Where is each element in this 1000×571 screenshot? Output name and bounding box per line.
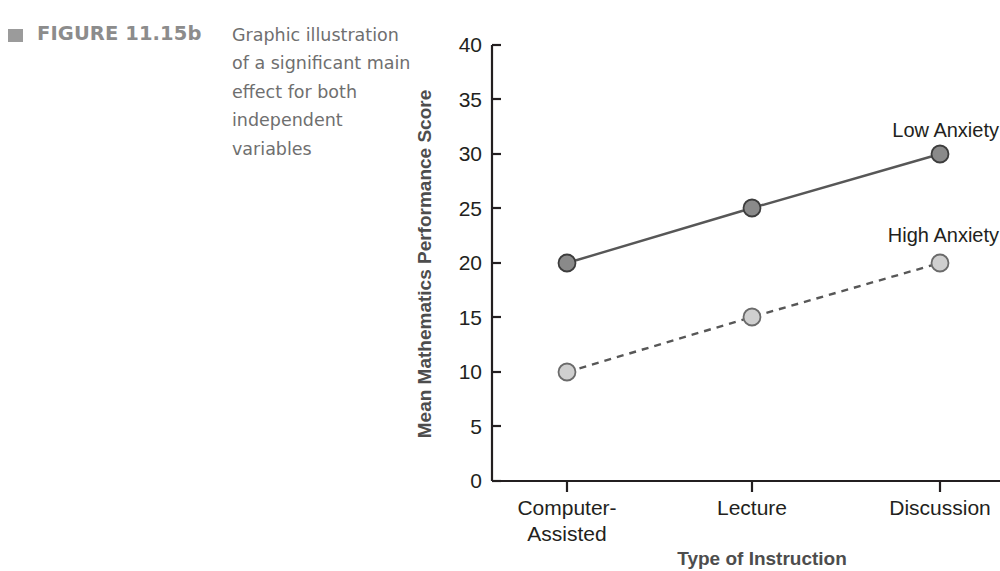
data-point-marker — [932, 146, 949, 163]
series-markers-high-anxiety — [559, 255, 949, 381]
y-tick-label: 0 — [470, 469, 482, 492]
data-point-marker — [559, 364, 576, 381]
figure-caption-block: FIGURE 11.15b Graphic illustration of a … — [0, 0, 430, 230]
x-axis-category-labels: Computer- Assisted Lecture Discussion — [517, 496, 990, 545]
x-axis-title: Type of Instruction — [677, 548, 847, 569]
series-label-high-anxiety: High Anxiety — [888, 224, 999, 246]
data-point-marker — [559, 255, 576, 272]
y-tick-label: 5 — [470, 415, 482, 438]
chart-canvas: Mean Mathematics Performance Score 40 35… — [410, 0, 1000, 571]
y-axis-tick-marks — [492, 45, 501, 481]
data-point-marker — [932, 255, 949, 272]
figure-label: FIGURE 11.15b — [37, 22, 201, 45]
y-tick-label: 30 — [459, 142, 482, 165]
x-axis-tick-marks — [567, 481, 940, 492]
data-point-marker — [744, 309, 761, 326]
x-tick-label: Assisted — [527, 522, 606, 545]
y-tick-label: 25 — [459, 197, 482, 220]
x-tick-label: Discussion — [889, 496, 991, 519]
y-tick-label: 20 — [459, 251, 482, 274]
series-label-low-anxiety: Low Anxiety — [892, 119, 999, 141]
line-chart: Mean Mathematics Performance Score 40 35… — [410, 0, 1000, 571]
y-tick-label: 40 — [459, 33, 482, 56]
series-markers-low-anxiety — [559, 146, 949, 272]
square-bullet-icon — [8, 29, 23, 42]
y-tick-label: 15 — [459, 306, 482, 329]
x-tick-label: Lecture — [717, 496, 787, 519]
y-axis-tick-labels: 40 35 30 25 20 15 10 5 0 — [459, 33, 482, 492]
y-axis-title: Mean Mathematics Performance Score — [414, 90, 435, 438]
data-point-marker — [744, 200, 761, 217]
x-tick-label: Computer- — [517, 496, 616, 519]
y-tick-label: 10 — [459, 360, 482, 383]
figure-caption-text: Graphic illustration of a significant ma… — [232, 21, 417, 163]
y-tick-label: 35 — [459, 88, 482, 111]
